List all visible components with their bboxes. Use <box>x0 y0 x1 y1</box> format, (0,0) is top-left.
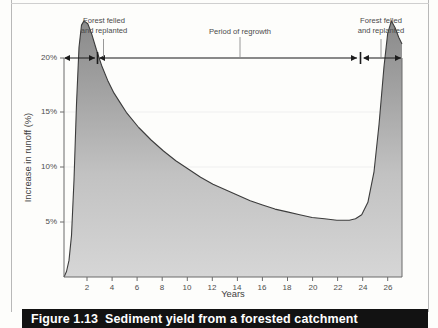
figure-page: 20% 15% 10% 5% 2 4 6 8 10 12 14 16 18 20… <box>0 0 438 328</box>
annotation-arrows <box>65 52 401 64</box>
x-tick-label-8: 8 <box>154 283 170 292</box>
annotation-forest-felled-right: Forest felled and replanted <box>333 16 429 36</box>
x-axis-ticks <box>87 277 388 281</box>
annotation-period-of-regrowth: Period of regrowth <box>188 27 292 37</box>
x-tick-label-24: 24 <box>355 283 371 292</box>
x-tick-label-2: 2 <box>79 283 95 292</box>
x-tick-label-6: 6 <box>129 283 145 292</box>
x-tick-label-20: 20 <box>305 283 321 292</box>
annotation-left-line1: Forest felled <box>56 16 152 26</box>
annotation-right-line1: Forest felled <box>333 16 429 26</box>
figure-number: Figure 1.13 <box>31 312 98 326</box>
runoff-area-chart <box>0 0 438 308</box>
y-tick-label-15: 15% <box>31 107 57 116</box>
y-tick-label-10: 10% <box>31 162 57 171</box>
x-tick-label-22: 22 <box>330 283 346 292</box>
figure-caption-bar: Figure 1.13Sediment yield from a foreste… <box>22 309 428 328</box>
annotation-right-line2: and replanted <box>333 26 429 36</box>
figure-caption-title: Sediment yield from a forested catchment <box>105 312 358 326</box>
y-tick-label-20: 20% <box>31 53 57 62</box>
chart-area: 20% 15% 10% 5% 2 4 6 8 10 12 14 16 18 20… <box>0 0 438 308</box>
runoff-area-fill <box>64 21 402 277</box>
annotation-leader-lines <box>104 37 382 57</box>
figure-caption: Figure 1.13Sediment yield from a foreste… <box>22 312 358 326</box>
annotation-left-line2: and replanted <box>56 26 152 36</box>
y-tick-label-5: 5% <box>31 217 57 226</box>
y-axis-title: Increase in runoff (%) <box>22 93 33 223</box>
x-axis-title: Years <box>183 288 283 299</box>
annotation-forest-felled-left: Forest felled and replanted <box>56 16 152 36</box>
x-tick-label-26: 26 <box>380 283 396 292</box>
x-tick-label-4: 4 <box>104 283 120 292</box>
y-axis-ticks <box>60 58 64 222</box>
